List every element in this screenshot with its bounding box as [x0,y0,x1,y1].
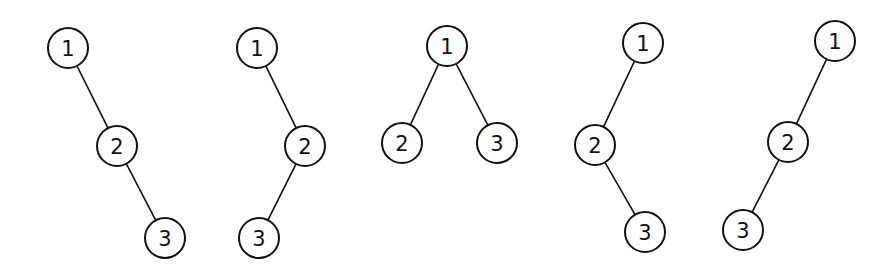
tree-node: 1 [427,26,467,66]
tree-node: 2 [575,125,615,165]
tree-node: 1 [237,28,277,68]
node-label: 1 [828,30,841,54]
node-label: 1 [250,37,263,61]
node-label: 1 [440,35,453,59]
tree-4: 123 [575,23,665,252]
tree-node: 1 [623,23,663,63]
edge-1-2 [77,66,108,128]
edge-2-3 [126,164,155,221]
tree-node: 3 [145,218,185,258]
tree-3: 123 [382,26,517,163]
edge-1-2 [410,64,438,125]
edge-2-3 [605,162,635,214]
node-label: 1 [61,37,74,61]
edge-2-3 [268,164,296,220]
edges-layer [77,59,827,220]
node-label: 3 [736,219,749,243]
edge-1-3 [456,64,488,125]
node-label: 3 [252,227,265,251]
tree-node: 1 [48,28,88,68]
tree-node: 3 [625,212,665,252]
tree-node: 2 [97,126,137,166]
node-label: 3 [158,227,171,251]
tree-3-edges [410,64,487,125]
tree-2: 123 [237,28,325,258]
node-label: 2 [781,131,794,155]
tree-5: 123 [723,21,855,250]
tree-node: 3 [477,123,517,163]
edge-1-2 [266,66,296,128]
node-label: 3 [638,221,651,245]
nodes-layer: 123123123123123 [48,21,855,258]
node-label: 3 [490,132,503,156]
tree-1: 123 [48,28,185,258]
tree-diagram: 123123123123123 [0,0,894,276]
edge-1-2 [796,59,826,124]
tree-node: 2 [768,122,808,162]
edge-2-3 [752,160,779,212]
tree-node: 1 [815,21,855,61]
node-label: 2 [395,132,408,156]
edge-1-2 [604,61,635,127]
tree-node: 3 [239,218,279,258]
tree-node: 2 [285,126,325,166]
node-label: 2 [588,134,601,158]
tree-node: 3 [723,210,763,250]
node-label: 2 [298,135,311,159]
node-label: 2 [110,135,123,159]
node-label: 1 [636,32,649,56]
tree-node: 2 [382,123,422,163]
